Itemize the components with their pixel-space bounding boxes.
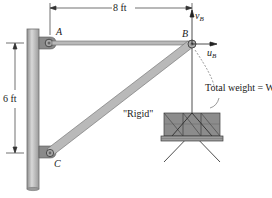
- weight-label: Total weight = W: [205, 83, 272, 93]
- dimension-label-8ft: 8 ft: [113, 3, 127, 13]
- point-label-c: C: [54, 159, 61, 169]
- dimension-label-6ft: 6 ft: [3, 94, 17, 104]
- point-label-a: A: [56, 27, 62, 37]
- wall-column: [27, 29, 39, 191]
- axis-label-vb: vB: [195, 11, 204, 23]
- weight-leader-line-2: [210, 98, 219, 108]
- member-ab: [52, 41, 190, 45]
- axis-label-ub: uB: [207, 48, 216, 60]
- crate: [161, 113, 223, 141]
- rigid-label: "Rigid": [123, 109, 153, 119]
- point-label-b: B: [182, 29, 188, 39]
- truss-diagram: [0, 0, 272, 198]
